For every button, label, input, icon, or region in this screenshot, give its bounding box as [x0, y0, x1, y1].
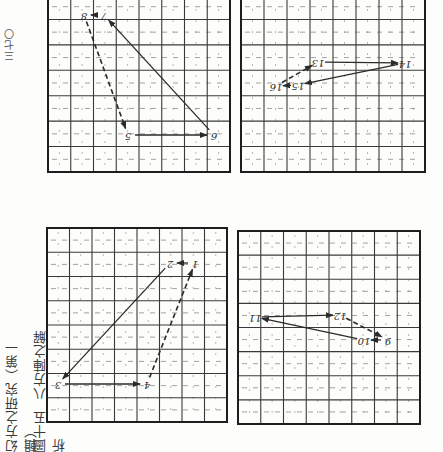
cell-number-label: 15 [292, 81, 305, 92]
solid-arrow [109, 20, 210, 130]
cell-number-label: 2 [167, 259, 174, 270]
scanned-page: 三七〇 幻方之研究（第一輯） 圖十五 八方陣之解析 12345678910111… [0, 0, 443, 452]
cell-number-label: 4 [144, 380, 151, 391]
cell-number-label: 1 [192, 259, 198, 270]
solid-arrow [325, 62, 398, 63]
cell-number-label: 16 [269, 82, 282, 93]
grid-panel: 9101112 [238, 231, 420, 424]
dashed-arrow [86, 22, 125, 129]
cell-number-label: 9 [384, 336, 391, 347]
cell-number-label: 14 [399, 59, 412, 70]
cell-number-label: 11 [249, 313, 262, 324]
cell-number-label: 13 [312, 58, 325, 69]
grid-panel: 13141516 [241, 0, 425, 172]
cell-number-label: 7 [100, 11, 107, 22]
solid-arrow [262, 315, 333, 317]
grid-panel: 1234 [47, 228, 227, 422]
figure-magic-square-paths: 12345678910111213141516 [0, 0, 443, 452]
cell-number-label: 8 [81, 11, 87, 22]
cell-number-label: 3 [55, 380, 61, 391]
grid-panel: 5678 [48, 0, 230, 172]
cell-number-label: 12 [334, 311, 347, 322]
cell-number-label: 5 [125, 131, 131, 142]
cell-number-label: 6 [210, 131, 217, 142]
cell-number-label: 10 [357, 336, 370, 347]
